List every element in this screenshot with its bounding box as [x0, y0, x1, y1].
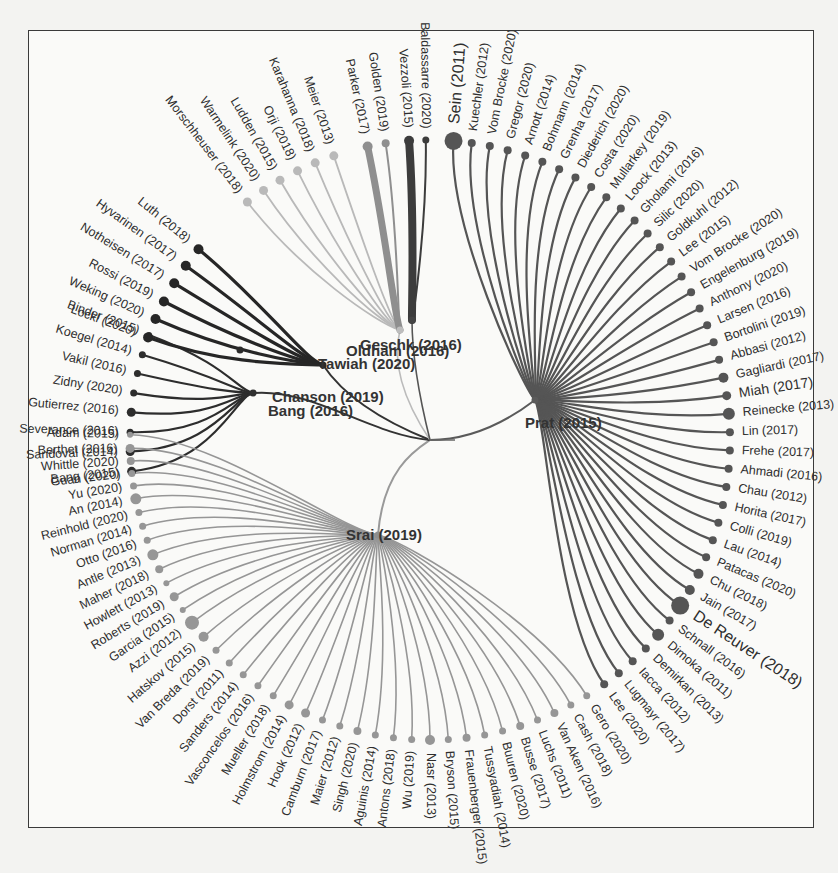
- leaf-node[interactable]: [128, 470, 135, 477]
- leaf-node[interactable]: [714, 519, 722, 527]
- leaf-node[interactable]: [159, 296, 169, 306]
- leaf-node[interactable]: [678, 273, 686, 281]
- hub-node[interactable]: [237, 347, 244, 354]
- leaf-node[interactable]: [353, 727, 361, 735]
- leaf-node[interactable]: [722, 483, 730, 491]
- leaf-node[interactable]: [481, 731, 488, 738]
- leaf-node[interactable]: [693, 569, 703, 579]
- leaf-node[interactable]: [143, 332, 153, 342]
- leaf-node[interactable]: [226, 659, 233, 666]
- leaf-node[interactable]: [521, 152, 529, 160]
- leaf-node[interactable]: [667, 258, 675, 266]
- leaf-node[interactable]: [725, 465, 733, 473]
- leaf-node[interactable]: [629, 657, 637, 665]
- leaf-node[interactable]: [199, 632, 209, 642]
- leaf-node[interactable]: [319, 717, 326, 724]
- leaf-node[interactable]: [276, 176, 285, 185]
- leaf-node[interactable]: [534, 717, 541, 724]
- leaf-node[interactable]: [144, 537, 151, 544]
- leaf-node[interactable]: [363, 142, 373, 152]
- leaf-node[interactable]: [127, 457, 135, 465]
- leaf-node[interactable]: [127, 408, 136, 417]
- leaf-node[interactable]: [468, 139, 476, 147]
- leaf-node[interactable]: [135, 509, 142, 516]
- leaf-node[interactable]: [602, 193, 610, 201]
- leaf-node[interactable]: [240, 671, 247, 678]
- leaf-node[interactable]: [285, 700, 294, 709]
- leaf-node[interactable]: [726, 428, 734, 436]
- leaf-node[interactable]: [336, 723, 343, 730]
- leaf-node[interactable]: [666, 617, 674, 625]
- leaf-node[interactable]: [163, 580, 169, 586]
- leaf-node[interactable]: [169, 278, 179, 288]
- leaf-node[interactable]: [130, 482, 137, 489]
- leaf-node[interactable]: [147, 549, 158, 560]
- leaf-node[interactable]: [652, 629, 664, 641]
- leaf-node[interactable]: [567, 701, 574, 708]
- leaf-node[interactable]: [155, 565, 163, 573]
- leaf-node[interactable]: [408, 736, 415, 743]
- leaf-node[interactable]: [703, 321, 711, 329]
- leaf-node[interactable]: [685, 585, 695, 595]
- leaf-node[interactable]: [422, 137, 429, 144]
- leaf-node[interactable]: [709, 536, 717, 544]
- leaf-node[interactable]: [134, 370, 141, 377]
- leaf-node[interactable]: [463, 734, 471, 742]
- leaf-node[interactable]: [702, 553, 710, 561]
- leaf-node[interactable]: [180, 607, 186, 613]
- leaf-node[interactable]: [516, 722, 524, 730]
- leaf-node[interactable]: [726, 446, 734, 454]
- leaf-node[interactable]: [139, 523, 146, 530]
- leaf-node[interactable]: [151, 314, 161, 324]
- leaf-node[interactable]: [259, 186, 268, 195]
- hub-node[interactable]: [409, 317, 416, 324]
- leaf-node[interactable]: [130, 390, 137, 397]
- leaf-node[interactable]: [600, 680, 608, 688]
- leaf-node[interactable]: [425, 735, 435, 745]
- leaf-node[interactable]: [571, 174, 579, 182]
- leaf-node[interactable]: [254, 682, 261, 689]
- leaf-node[interactable]: [583, 692, 590, 699]
- leaf-node[interactable]: [550, 709, 558, 717]
- leaf-node[interactable]: [504, 146, 512, 154]
- leaf-node[interactable]: [671, 597, 689, 615]
- leaf-node[interactable]: [486, 142, 494, 150]
- leaf-node[interactable]: [130, 493, 141, 504]
- leaf-node[interactable]: [139, 351, 146, 358]
- leaf-node[interactable]: [181, 261, 191, 271]
- leaf-node[interactable]: [194, 244, 204, 254]
- hub-node[interactable]: [397, 327, 404, 334]
- leaf-node[interactable]: [270, 692, 277, 699]
- leaf-node[interactable]: [213, 647, 220, 654]
- leaf-node[interactable]: [718, 373, 728, 383]
- leaf-node[interactable]: [587, 183, 595, 191]
- leaf-node[interactable]: [710, 338, 718, 346]
- leaf-node[interactable]: [445, 132, 463, 150]
- leaf-node[interactable]: [723, 408, 735, 420]
- leaf-node[interactable]: [538, 158, 546, 166]
- leaf-node[interactable]: [382, 139, 390, 147]
- leaf-node[interactable]: [719, 501, 727, 509]
- leaf-node[interactable]: [301, 708, 310, 717]
- leaf-node[interactable]: [644, 229, 652, 237]
- leaf-node[interactable]: [311, 158, 320, 167]
- leaf-node[interactable]: [127, 432, 133, 438]
- leaf-node[interactable]: [696, 304, 704, 312]
- leaf-node[interactable]: [555, 165, 563, 173]
- leaf-node[interactable]: [243, 197, 252, 206]
- leaf-node[interactable]: [499, 728, 506, 735]
- leaf-node[interactable]: [617, 205, 625, 213]
- leaf-node[interactable]: [404, 136, 414, 146]
- leaf-node[interactable]: [615, 669, 623, 677]
- leaf-node[interactable]: [656, 243, 664, 251]
- leaf-node[interactable]: [631, 217, 639, 225]
- leaf-node[interactable]: [185, 616, 199, 630]
- hub-node[interactable]: [250, 390, 257, 397]
- leaf-node[interactable]: [390, 734, 397, 741]
- leaf-node[interactable]: [372, 731, 379, 738]
- leaf-node[interactable]: [126, 444, 135, 453]
- leaf-node[interactable]: [329, 151, 338, 160]
- leaf-node[interactable]: [722, 391, 731, 400]
- leaf-node[interactable]: [170, 592, 179, 601]
- leaf-node[interactable]: [715, 356, 723, 364]
